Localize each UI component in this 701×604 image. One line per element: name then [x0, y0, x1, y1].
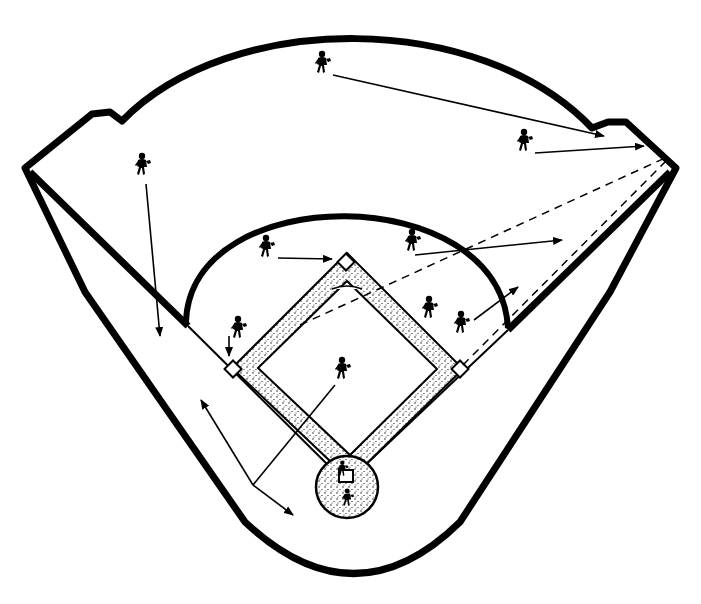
player-third-baseman — [231, 316, 247, 338]
player-shortstop — [259, 235, 275, 257]
player-left-fielder — [135, 153, 151, 175]
player-right-fielder — [517, 129, 533, 151]
home-plate-area — [316, 456, 378, 518]
arrow-rf — [535, 146, 644, 153]
arrow-ss — [278, 258, 332, 259]
field-svg — [0, 0, 701, 604]
movement-arrows — [146, 75, 644, 515]
arrow-lf — [146, 184, 160, 336]
arrow-2b — [415, 240, 562, 255]
arrow-p-down — [253, 485, 293, 515]
baseball-field-diagram — [0, 0, 701, 604]
player-first-baseman — [454, 311, 470, 333]
player-second-baseman — [405, 229, 421, 251]
player-center-fielder — [315, 51, 331, 73]
player-runner — [422, 296, 438, 318]
